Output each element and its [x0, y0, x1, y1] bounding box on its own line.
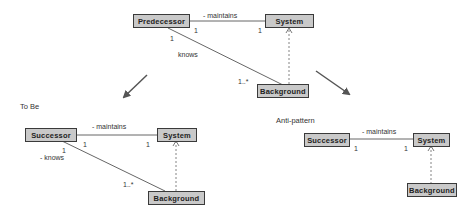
- top-mult-sys-maint: 1: [258, 27, 262, 34]
- to-be-title: To Be: [20, 103, 39, 111]
- tobe-system-class: System: [157, 128, 197, 142]
- top-mult-pred-knows: 1: [170, 35, 174, 42]
- tobe-knows-label: - knows: [40, 154, 64, 161]
- tobe-mult-sys-maint: 1: [146, 141, 150, 148]
- anti-mult-sys-maint: 1: [404, 145, 408, 152]
- tobe-mult-succ-knows: 1: [62, 147, 66, 154]
- anti-system-class: System: [413, 133, 450, 147]
- tobe-maintains-label: - maintains: [92, 123, 126, 130]
- diagram-connectors: [0, 0, 476, 213]
- anti-background-class: Background: [407, 183, 457, 197]
- predecessor-class: Predecessor: [133, 14, 190, 28]
- top-maintains-label: - maintains: [203, 12, 237, 19]
- top-system-class: System: [265, 14, 314, 28]
- top-background-class: Background: [257, 84, 309, 98]
- anti-mult-succ-maint: 1: [354, 145, 358, 152]
- arrow-to-be-icon: [124, 75, 147, 97]
- top-mult-pred-maint: 1: [194, 27, 198, 34]
- anti-successor-class: Successor: [304, 133, 350, 147]
- arrow-anti-pattern-icon: [316, 71, 349, 94]
- top-mult-bg-knows: 1..*: [238, 78, 249, 85]
- tobe-background-class: Background: [148, 191, 205, 205]
- tobe-mult-bg-knows: 1..*: [123, 181, 134, 188]
- tobe-mult-succ-maint: 1: [83, 141, 87, 148]
- anti-maintains-label: - maintains: [362, 128, 396, 135]
- anti-pattern-title: Anti-pattern: [276, 117, 315, 125]
- tobe-successor-class: Successor: [25, 128, 77, 142]
- tobe-knows-association: [62, 141, 165, 191]
- top-knows-label: knows: [178, 51, 198, 58]
